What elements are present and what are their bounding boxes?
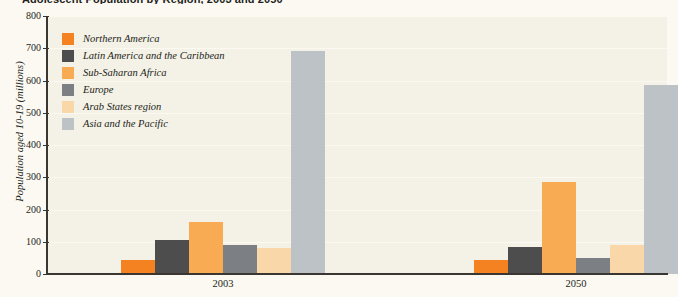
x-tick-label: 2003 xyxy=(163,278,283,289)
legend-swatch-icon xyxy=(62,67,74,79)
legend-item[interactable]: Sub-Saharan Africa xyxy=(62,64,225,81)
bar-group xyxy=(474,16,678,274)
chart-legend: Northern AmericaLatin America and the Ca… xyxy=(62,30,225,132)
y-axis-label: Population aged 10-19 (millions) xyxy=(14,47,25,217)
y-tick-label: 700 xyxy=(26,42,41,53)
legend-item[interactable]: Latin America and the Caribbean xyxy=(62,47,225,64)
legend-item[interactable]: Arab States region xyxy=(62,98,225,115)
legend-swatch-icon xyxy=(62,101,74,113)
bar[interactable] xyxy=(508,247,542,274)
y-tick-label: 100 xyxy=(26,236,41,247)
bar[interactable] xyxy=(223,245,257,274)
bar[interactable] xyxy=(610,245,644,274)
bar[interactable] xyxy=(291,51,325,274)
legend-label: Latin America and the Caribbean xyxy=(83,50,225,61)
y-tick-label: 500 xyxy=(26,107,41,118)
y-tick-label: 300 xyxy=(26,171,41,182)
bar[interactable] xyxy=(121,260,155,275)
bar[interactable] xyxy=(576,258,610,274)
legend-label: Europe xyxy=(83,84,114,95)
y-tick-label: 400 xyxy=(26,139,41,150)
legend-item[interactable]: Northern America xyxy=(62,30,225,47)
bar[interactable] xyxy=(542,182,576,274)
x-tick-label: 2050 xyxy=(516,278,636,289)
legend-swatch-icon xyxy=(62,118,74,130)
legend-label: Asia and the Pacific xyxy=(83,118,168,129)
bar[interactable] xyxy=(474,260,508,275)
y-tick-label: 600 xyxy=(26,75,41,86)
chart-title: Adolescent Population by Region, 2003 an… xyxy=(22,0,283,4)
legend-label: Northern America xyxy=(83,33,160,44)
legend-label: Arab States region xyxy=(83,101,161,112)
legend-item[interactable]: Europe xyxy=(62,81,225,98)
y-axis-line xyxy=(46,16,48,274)
legend-label: Sub-Saharan Africa xyxy=(83,67,167,78)
legend-swatch-icon xyxy=(62,50,74,62)
y-tick-label: 800 xyxy=(26,10,41,21)
x-axis-line xyxy=(46,273,668,275)
legend-swatch-icon xyxy=(62,33,74,45)
legend-swatch-icon xyxy=(62,84,74,96)
bar[interactable] xyxy=(257,248,291,274)
bar[interactable] xyxy=(155,240,189,274)
bar[interactable] xyxy=(189,222,223,274)
y-tick-label: 0 xyxy=(36,268,41,279)
y-tick-label: 200 xyxy=(26,204,41,215)
bar[interactable] xyxy=(644,85,678,274)
legend-item[interactable]: Asia and the Pacific xyxy=(62,115,225,132)
